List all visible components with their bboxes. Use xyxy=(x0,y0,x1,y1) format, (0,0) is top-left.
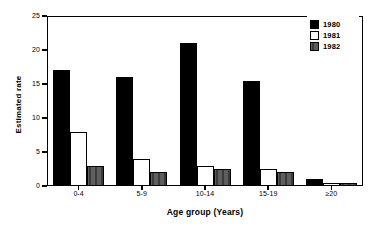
legend-label-1982: 1982 xyxy=(323,42,341,51)
x-tick-label: ≥20 xyxy=(301,190,361,197)
bar-1981-10-14 xyxy=(197,166,214,186)
bar-1980-≥20 xyxy=(306,179,323,186)
bar-1980-5-9 xyxy=(116,77,133,186)
x-axis-title: Age group (Years) xyxy=(47,207,363,217)
chart-figure: Estimated rate 0510152025 0-45-910-1415-… xyxy=(0,0,381,230)
bar-1982-0-4 xyxy=(87,166,104,186)
y-tick-label: 25 xyxy=(14,12,40,19)
bar-1982-15-19 xyxy=(277,172,294,186)
legend-swatch-1982 xyxy=(310,42,319,51)
bar-1982-10-14 xyxy=(214,169,231,186)
chart-legend: 198019811982 xyxy=(307,16,359,55)
legend-swatch-1981 xyxy=(310,31,319,40)
bar-1980-15-19 xyxy=(243,81,260,186)
bar-1980-10-14 xyxy=(180,43,197,186)
x-tick-label: 0-4 xyxy=(49,190,109,197)
y-tick-label: 15 xyxy=(14,80,40,87)
bar-1981-0-4 xyxy=(70,132,87,186)
legend-label-1980: 1980 xyxy=(323,20,341,29)
bar-1980-0-4 xyxy=(53,70,70,186)
y-tick-label: 10 xyxy=(14,114,40,121)
y-axis-title: Estimated rate xyxy=(12,58,26,150)
x-tick-label: 5-9 xyxy=(112,190,172,197)
bar-1982-≥20 xyxy=(340,183,357,186)
y-tick-label: 5 xyxy=(14,148,40,155)
legend-item-1980: 1980 xyxy=(310,19,357,30)
legend-item-1981: 1981 xyxy=(310,30,357,41)
y-tick-label: 0 xyxy=(14,182,40,189)
legend-swatch-1980 xyxy=(310,20,319,29)
bar-1981-5-9 xyxy=(133,159,150,186)
legend-item-1982: 1982 xyxy=(310,41,357,52)
bar-1981-15-19 xyxy=(260,169,277,186)
x-tick-label: 10-14 xyxy=(175,190,235,197)
x-tick-label: 15-19 xyxy=(238,190,298,197)
y-tick-label: 20 xyxy=(14,46,40,53)
legend-label-1981: 1981 xyxy=(323,31,341,40)
bar-1982-5-9 xyxy=(150,172,167,186)
